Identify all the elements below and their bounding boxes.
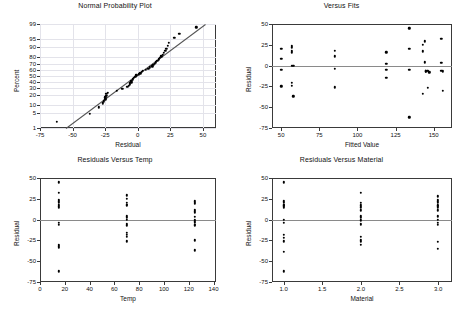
- gridline-horizontal: [40, 105, 216, 106]
- y-tick-mark: [37, 95, 40, 96]
- x-tick-label: 50: [200, 132, 207, 138]
- x-tick-label: -50: [68, 132, 77, 138]
- y-tick-mark: [269, 240, 272, 241]
- x-tick-mark: [396, 128, 397, 131]
- x-tick-label: 80: [136, 286, 143, 292]
- y-tick-mark: [269, 178, 272, 179]
- gridline-horizontal: [40, 24, 216, 25]
- x-tick-mark: [281, 128, 282, 131]
- y-tick-label: 95: [16, 36, 36, 42]
- y-tick-mark: [269, 45, 272, 46]
- y-tick-mark: [269, 128, 272, 129]
- y-tick-label: -75: [248, 279, 268, 285]
- zero-reference-line: [272, 220, 452, 221]
- x-tick-label: 140: [209, 286, 219, 292]
- y-tick-label: 99: [16, 21, 36, 27]
- x-tick-mark: [40, 282, 41, 285]
- x-tick-label: -75: [36, 132, 45, 138]
- x-tick-mark: [164, 282, 165, 285]
- x-tick-label: 100: [352, 132, 362, 138]
- y-tick-mark: [37, 64, 40, 65]
- x-tick-label: 150: [429, 132, 439, 138]
- x-tick-mark: [438, 282, 439, 285]
- x-tick-label: 20: [61, 286, 68, 292]
- y-tick-label: -75: [16, 279, 36, 285]
- x-tick-mark: [214, 282, 215, 285]
- y-tick-label: 50: [248, 175, 268, 181]
- y-tick-mark: [37, 39, 40, 40]
- x-tick-label: 2.0: [357, 286, 365, 292]
- zero-reference-line: [272, 66, 452, 67]
- zero-reference-line: [40, 220, 216, 221]
- x-tick-mark: [40, 128, 41, 131]
- x-tick-label: 2.5: [395, 286, 403, 292]
- x-tick-label: -25: [101, 132, 110, 138]
- plot-area-residuals-versus-temp: [40, 178, 216, 282]
- x-tick-mark: [73, 128, 74, 131]
- y-tick-mark: [269, 220, 272, 221]
- gridline-horizontal: [40, 88, 216, 89]
- y-tick-label: 90: [16, 44, 36, 50]
- y-tick-mark: [37, 88, 40, 89]
- x-tick-label: 1.5: [318, 286, 326, 292]
- x-tick-mark: [322, 282, 323, 285]
- y-axis-title-residuals-versus-temp: Residual: [13, 221, 20, 246]
- y-tick-mark: [269, 86, 272, 87]
- panel-normal-probability-plot: Normal Probability Plot-75-50-2502550151…: [2, 2, 228, 154]
- x-tick-mark: [189, 282, 190, 285]
- x-tick-mark: [319, 128, 320, 131]
- x-tick-label: 75: [316, 132, 323, 138]
- x-tick-mark: [170, 128, 171, 131]
- y-axis-title-normal-probability-plot: Percent: [13, 70, 20, 92]
- plot-title-versus-fits: Versus Fits: [228, 2, 455, 9]
- y-tick-mark: [37, 178, 40, 179]
- x-tick-mark: [361, 282, 362, 285]
- x-axis-title-residuals-versus-material: Material: [272, 295, 452, 302]
- gridline-horizontal: [40, 113, 216, 114]
- y-tick-label: -75: [248, 125, 268, 131]
- plot-title-normal-probability-plot: Normal Probability Plot: [2, 2, 228, 9]
- y-tick-label: 25: [248, 196, 268, 202]
- y-tick-mark: [37, 24, 40, 25]
- y-tick-mark: [37, 105, 40, 106]
- y-tick-mark: [37, 70, 40, 71]
- x-tick-label: 3.0: [434, 286, 442, 292]
- x-tick-mark: [114, 282, 115, 285]
- y-tick-mark: [37, 240, 40, 241]
- plot-title-residuals-versus-temp: Residuals Versus Temp: [2, 156, 228, 163]
- y-axis-title-residuals-versus-material: Residual: [245, 221, 252, 246]
- y-tick-label: -50: [248, 258, 268, 264]
- x-tick-mark: [284, 282, 285, 285]
- x-tick-mark: [399, 282, 400, 285]
- y-tick-mark: [37, 47, 40, 48]
- x-tick-label: 0: [136, 132, 139, 138]
- y-tick-mark: [37, 282, 40, 283]
- x-tick-label: 100: [159, 286, 169, 292]
- x-tick-label: 1.0: [279, 286, 287, 292]
- x-tick-label: 120: [184, 286, 194, 292]
- gridline-horizontal: [40, 47, 216, 48]
- y-tick-label: 20: [16, 92, 36, 98]
- x-tick-mark: [105, 128, 106, 131]
- x-tick-label: 60: [111, 286, 118, 292]
- y-tick-label: 70: [16, 61, 36, 67]
- y-tick-mark: [37, 199, 40, 200]
- y-tick-mark: [37, 76, 40, 77]
- y-tick-label: 80: [16, 54, 36, 60]
- gridline-horizontal: [40, 76, 216, 77]
- y-tick-mark: [269, 261, 272, 262]
- panel-residuals-versus-material: Residuals Versus Material1.01.52.02.53.0…: [228, 156, 455, 308]
- gridline-horizontal: [40, 57, 216, 58]
- y-axis-title-versus-fits: Residual: [245, 67, 252, 92]
- x-tick-mark: [203, 128, 204, 131]
- y-tick-mark: [269, 66, 272, 67]
- y-tick-label: 50: [16, 175, 36, 181]
- x-tick-label: 125: [391, 132, 401, 138]
- y-tick-mark: [37, 82, 40, 83]
- y-tick-mark: [37, 261, 40, 262]
- x-tick-label: 25: [167, 132, 174, 138]
- x-tick-mark: [139, 282, 140, 285]
- x-tick-mark: [138, 128, 139, 131]
- gridline-horizontal: [40, 70, 216, 71]
- x-tick-mark: [357, 128, 358, 131]
